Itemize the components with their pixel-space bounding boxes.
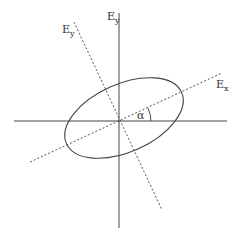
ex-rotated-label: Ex: [216, 78, 229, 93]
ey-axis-label: Ey: [107, 10, 120, 25]
angle-alpha-label: α: [137, 109, 145, 122]
ey-rotated-label: Ey: [62, 23, 75, 38]
angle-arc: [148, 108, 151, 121]
polarization-diagram: Ey Ey Ex α: [0, 0, 236, 239]
rotated-x-axis-dashed: [30, 73, 222, 162]
rotated-y-axis-dashed: [74, 22, 162, 210]
polarization-ellipse: [53, 61, 196, 174]
